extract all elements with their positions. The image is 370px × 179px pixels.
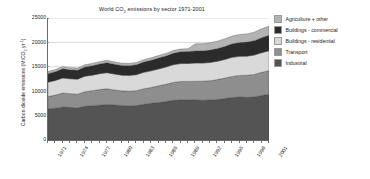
- plot-area: [47, 18, 269, 141]
- x-tick-mark: [91, 141, 92, 143]
- x-tick-mark: [76, 141, 77, 143]
- x-tick-mark: [47, 141, 48, 143]
- legend-label: Transport: [286, 49, 308, 55]
- x-tick-mark: [69, 141, 70, 143]
- x-tick-label: 1980: [122, 145, 133, 158]
- legend-swatch: [274, 37, 282, 45]
- x-tick-label: 1989: [189, 145, 200, 158]
- x-tick-label: 1971: [56, 145, 67, 158]
- legend-swatch: [274, 48, 282, 56]
- x-tick-mark: [54, 141, 55, 143]
- x-tick-mark: [135, 141, 136, 143]
- x-tick-mark: [268, 141, 269, 143]
- chart-legend: Agriculture + otherBuildings - commercia…: [274, 13, 368, 69]
- x-tick-label: 1995: [233, 145, 244, 158]
- legend-item[interactable]: Industrial: [274, 58, 368, 69]
- x-tick-label: 1977: [100, 145, 111, 158]
- x-tick-mark: [158, 141, 159, 143]
- y-tick-label: 10000: [18, 89, 46, 94]
- x-tick-mark: [261, 141, 262, 143]
- x-tick-mark: [202, 141, 203, 143]
- chart-title-pre: World CO: [99, 6, 123, 12]
- x-tick-mark: [121, 141, 122, 143]
- x-tick-mark: [209, 141, 210, 143]
- x-tick-mark: [165, 141, 166, 143]
- stacked-area-svg: [48, 18, 269, 140]
- x-tick-mark: [128, 141, 129, 143]
- x-tick-mark: [194, 141, 195, 143]
- legend-label: Industrial: [286, 60, 307, 66]
- x-tick-mark: [172, 141, 173, 143]
- x-tick-label: 1998: [255, 145, 266, 158]
- x-tick-mark: [224, 141, 225, 143]
- legend-swatch: [274, 59, 282, 67]
- y-tick-label: 0: [18, 137, 46, 142]
- x-tick-label: 1983: [145, 145, 156, 158]
- x-axis-tick-labels: 1971197419771980198319861989199219951998…: [47, 141, 268, 179]
- x-tick-mark: [187, 141, 188, 143]
- x-tick-label: 2001: [277, 145, 288, 158]
- legend-label: Buildings - commercial: [286, 27, 338, 33]
- x-tick-label: 1974: [78, 145, 89, 158]
- x-tick-mark: [246, 141, 247, 143]
- chart-title: World CO2 emissions by sector 1971-2001: [62, 6, 242, 14]
- x-tick-mark: [62, 141, 63, 143]
- x-tick-mark: [180, 141, 181, 143]
- y-tick-label: 25000: [18, 15, 46, 20]
- legend-swatch: [274, 15, 282, 23]
- x-tick-mark: [216, 141, 217, 143]
- x-tick-mark: [113, 141, 114, 143]
- x-tick-mark: [150, 141, 151, 143]
- x-tick-mark: [99, 141, 100, 143]
- legend-swatch: [274, 26, 282, 34]
- y-tick-label: 20000: [18, 40, 46, 45]
- x-tick-mark: [143, 141, 144, 143]
- y-tick-label: 15000: [18, 64, 46, 69]
- legend-item[interactable]: Buildings - commercial: [274, 24, 368, 35]
- y-tick-label: 5000: [18, 113, 46, 118]
- x-tick-mark: [231, 141, 232, 143]
- y-axis-tick-labels: 0500010000150002000025000: [18, 0, 46, 179]
- chart-title-post: emissions by sector 1971-2001: [126, 6, 205, 12]
- legend-item[interactable]: Transport: [274, 47, 368, 58]
- co2-emissions-chart: World CO2 emissions by sector 1971-2001 …: [0, 0, 370, 179]
- legend-item[interactable]: Agriculture + other: [274, 13, 368, 24]
- x-tick-mark: [239, 141, 240, 143]
- legend-item[interactable]: Buildings - residential: [274, 35, 368, 46]
- x-tick-label: 1986: [167, 145, 178, 158]
- legend-label: Buildings - residential: [286, 38, 335, 44]
- x-tick-mark: [253, 141, 254, 143]
- x-tick-mark: [106, 141, 107, 143]
- x-tick-mark: [84, 141, 85, 143]
- x-tick-label: 1992: [211, 145, 222, 158]
- legend-label: Agriculture + other: [286, 16, 329, 22]
